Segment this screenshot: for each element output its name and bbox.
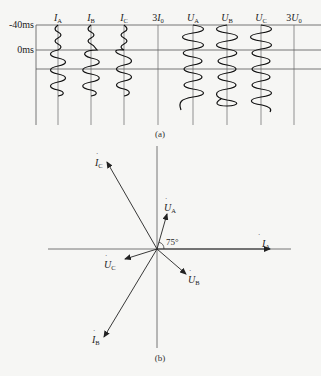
label-UA: UA xyxy=(164,202,176,214)
phasor-UB xyxy=(157,249,186,274)
label-IC: IC xyxy=(94,157,103,169)
angle-arc xyxy=(159,242,164,249)
channel-label-IC: IC xyxy=(119,12,128,24)
dot-IC: · xyxy=(96,150,98,158)
label-UB: UB xyxy=(188,274,200,286)
time-label-minus40: -40ms xyxy=(9,19,34,30)
dot-IB: · xyxy=(93,327,95,335)
label-IB: IB xyxy=(91,334,100,346)
dot-UA: · xyxy=(165,195,167,203)
caption-a: (a) xyxy=(155,129,165,139)
channel-label-3I0: 3I0 xyxy=(152,12,164,24)
phasor-IB xyxy=(104,249,157,337)
angle-label: 75° xyxy=(166,237,179,247)
waveform-panel: -40ms 0ms IA IB IC 3I0 UA UB UC 3U0 (a) xyxy=(9,12,321,139)
phasor-IC xyxy=(107,162,157,249)
channel-label-UB: UB xyxy=(221,12,233,24)
dot-UB: · xyxy=(189,267,191,275)
channel-label-UC: UC xyxy=(255,12,267,24)
waveform-UA xyxy=(180,25,204,110)
label-UC: UC xyxy=(104,259,116,271)
waveform-IC xyxy=(116,25,132,96)
channel-label-UA: UA xyxy=(187,12,199,24)
dot-UC: · xyxy=(105,252,107,260)
caption-b: (b) xyxy=(155,353,166,363)
channel-label-3U0: 3U0 xyxy=(286,12,301,24)
phasor-diagram: 75° IA · IC · IB · UA · UB · UC · (b) xyxy=(48,146,291,363)
channel-label-IB: IB xyxy=(86,12,95,24)
label-IA: IA xyxy=(261,238,270,250)
fault-recording-figure: -40ms 0ms IA IB IC 3I0 UA UB UC 3U0 (a) xyxy=(0,0,321,376)
channel-label-IA: IA xyxy=(53,12,62,24)
dot-IA: · xyxy=(258,231,260,239)
time-label-0: 0ms xyxy=(17,44,34,55)
